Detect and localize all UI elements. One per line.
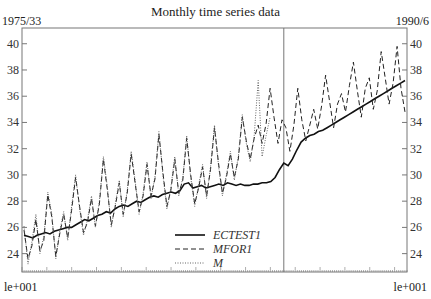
y-tick-label: 32 xyxy=(7,142,19,156)
y-tick-label: 28 xyxy=(7,194,19,208)
y-tick-label: 38 xyxy=(7,63,19,77)
y-tick-label: 26 xyxy=(410,220,422,234)
legend: ECTEST1MFOR1M xyxy=(175,228,261,270)
chart-plot: 242628303234363840 242628303234363840 EC… xyxy=(0,0,431,299)
y-tick-label: 32 xyxy=(410,142,422,156)
y-tick-label: 36 xyxy=(410,89,422,103)
legend-label: M xyxy=(212,256,224,270)
legend-label: ECTEST1 xyxy=(212,228,261,242)
y-tick-label: 24 xyxy=(7,247,19,261)
legend-label: MFOR1 xyxy=(212,242,252,256)
y-axis-right: 242628303234363840 xyxy=(402,37,422,261)
y-tick-label: 30 xyxy=(410,168,422,182)
y-tick-label: 40 xyxy=(7,37,19,51)
y-tick-label: 34 xyxy=(410,115,422,129)
y-tick-label: 30 xyxy=(7,168,19,182)
y-tick-label: 34 xyxy=(7,115,19,129)
y-tick-label: 24 xyxy=(410,247,422,261)
y-tick-label: 26 xyxy=(7,220,19,234)
y-tick-label: 38 xyxy=(410,63,422,77)
y-tick-label: 36 xyxy=(7,89,19,103)
y-tick-label: 40 xyxy=(410,37,422,51)
y-tick-label: 28 xyxy=(410,194,422,208)
